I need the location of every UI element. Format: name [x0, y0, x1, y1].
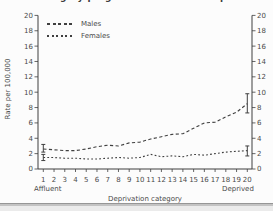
y-tick-label-right: 18 [257, 27, 266, 35]
x-tick-label: 7 [105, 176, 109, 184]
x-tick-label: 13 [168, 176, 177, 184]
y-tick-label-right: 10 [257, 89, 266, 97]
y-tick-label-right: 4 [257, 135, 262, 143]
x-tick-label: 11 [146, 176, 155, 184]
x-tick-label: 12 [157, 176, 166, 184]
y-tick-label-left: 8 [29, 104, 33, 112]
y-tick-label-left: 18 [24, 27, 33, 35]
x-tick-label: 8 [116, 176, 120, 184]
x-axis-start-label: Affluent [34, 185, 61, 193]
x-tick-label: 1 [41, 176, 45, 184]
y-tick-label-right: 16 [257, 43, 266, 51]
y-tick-label-right: 6 [257, 119, 262, 127]
figure-root: g yp g p 0022446688101012121414161618182… [0, 0, 273, 211]
legend-label-females: Females [81, 33, 110, 40]
y-tick-label-right: 8 [257, 104, 261, 112]
x-tick-label: 6 [95, 176, 100, 184]
females-dash-sample-icon [47, 35, 75, 37]
y-tick-label-right: 12 [257, 73, 266, 81]
x-tick-label: 15 [189, 176, 198, 184]
x-tick-label: 5 [84, 176, 88, 184]
x-tick-label: 17 [211, 176, 220, 184]
x-tick-label: 3 [63, 176, 67, 184]
line-chart: 0022446688101012121414161618182020123456… [0, 0, 273, 211]
x-tick-label: 14 [178, 176, 187, 184]
legend-item-females: Females [47, 30, 110, 42]
x-axis-title: Deprivation category [38, 195, 252, 203]
y-tick-label-right: 0 [257, 165, 261, 173]
y-tick-label-left: 14 [24, 58, 33, 66]
legend-label-males: Males [81, 21, 101, 28]
x-tick-label: 4 [73, 176, 78, 184]
males-line [43, 104, 247, 151]
x-tick-label: 20 [243, 176, 252, 184]
x-tick-label: 16 [200, 176, 209, 184]
y-tick-label-left: 12 [24, 73, 33, 81]
y-tick-label-right: 2 [257, 150, 261, 158]
x-tick-label: 19 [232, 176, 241, 184]
y-tick-label-left: 10 [24, 89, 33, 97]
y-tick-label-left: 4 [29, 135, 34, 143]
x-tick-label: 9 [127, 176, 131, 184]
chart-legend: Males Females [47, 18, 110, 42]
females-line [43, 151, 247, 159]
legend-item-males: Males [47, 18, 110, 30]
y-tick-label-right: 20 [257, 12, 266, 20]
y-tick-label-left: 16 [24, 43, 33, 51]
bottom-rule-divider [0, 203, 273, 211]
y-tick-label-left: 6 [29, 119, 34, 127]
males-dash-sample-icon [47, 23, 75, 25]
x-axis-end-label: Deprived [222, 185, 254, 193]
x-tick-label: 10 [135, 176, 144, 184]
y-tick-label-left: 2 [29, 150, 33, 158]
y-tick-label-left: 20 [24, 12, 33, 20]
x-tick-label: 2 [52, 176, 56, 184]
y-tick-label-right: 14 [257, 58, 266, 66]
x-tick-label: 18 [221, 176, 230, 184]
y-tick-label-left: 0 [29, 165, 33, 173]
y-axis-title: Rate per 100,000 [4, 14, 12, 164]
